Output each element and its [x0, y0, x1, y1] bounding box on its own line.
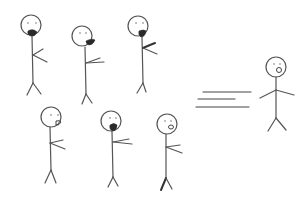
arm-upper — [113, 139, 129, 142]
stick-figure-right — [260, 57, 294, 131]
stick-figure-5 — [101, 111, 132, 187]
mouth-o — [169, 125, 174, 129]
leg-right — [276, 118, 286, 130]
leg-right — [113, 177, 118, 186]
arm-lower — [113, 142, 132, 144]
arm-upper — [33, 49, 43, 55]
arm-lower — [33, 55, 47, 62]
arm-right — [276, 90, 294, 95]
body — [50, 127, 51, 170]
arm-left — [260, 90, 276, 98]
leg-left — [268, 118, 276, 131]
mouth-open — [86, 39, 95, 45]
arm-lower — [166, 147, 182, 153]
leg-left — [27, 83, 33, 95]
arm-lower — [143, 48, 157, 54]
mouth-open — [139, 30, 146, 37]
body — [112, 131, 113, 177]
stick-figure-6 — [157, 114, 182, 190]
head — [266, 57, 286, 77]
leg-right — [33, 83, 41, 94]
arm-upper — [50, 140, 63, 143]
leg-right — [166, 178, 172, 189]
body — [85, 47, 86, 94]
body — [32, 36, 33, 83]
head — [41, 107, 61, 127]
stick-figure-2 — [72, 26, 104, 104]
stick-figure-1 — [21, 15, 47, 95]
speed-lines — [196, 92, 251, 107]
mouth-open — [28, 30, 37, 36]
arm-upper — [143, 43, 155, 48]
arm-lower — [50, 143, 65, 149]
body — [142, 37, 143, 83]
head — [157, 114, 177, 134]
leg-left — [161, 178, 166, 190]
mouth-o — [277, 68, 282, 73]
leg-left — [82, 94, 86, 104]
stick-figure-4 — [41, 107, 65, 183]
leg-right — [86, 94, 92, 103]
leg-left — [137, 83, 143, 93]
leg-right — [143, 83, 146, 92]
stick-figure-3 — [128, 16, 157, 93]
arm-upper — [166, 145, 180, 147]
stick-figure-diagram — [0, 0, 308, 203]
leg-left — [108, 177, 113, 187]
leg-left — [45, 170, 51, 183]
leg-right — [51, 170, 56, 183]
